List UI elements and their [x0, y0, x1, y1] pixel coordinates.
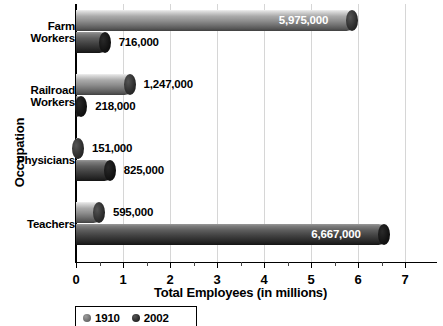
bar-2002-physicians: [76, 160, 115, 181]
circle-marker-1910-icon: [83, 314, 91, 322]
legend-item-2002[interactable]: 2002: [132, 312, 169, 324]
x-tick: [358, 262, 359, 268]
bar-end-cap: [378, 224, 390, 245]
legend-label: 1910: [95, 312, 120, 324]
x-tick-minor: [335, 262, 336, 266]
x-tick: [76, 262, 77, 268]
bar-1910-teachers: [76, 202, 104, 223]
legend-item-1910[interactable]: 1910: [83, 312, 120, 324]
bar-2002-farm-workers: [76, 32, 110, 53]
category-label-line: Railroad: [0, 84, 75, 96]
bar-2002-railroad-workers: [76, 96, 86, 117]
x-tick: [217, 262, 218, 268]
bar-value-label: 218,000: [95, 96, 135, 117]
x-tick-minor: [382, 262, 383, 266]
bar-end-cap: [72, 138, 84, 159]
bar-value-label: 1,247,000: [144, 74, 193, 95]
bar-end-cap: [346, 10, 358, 31]
x-axis-title: Total Employees (in millions): [76, 285, 405, 300]
category-label-line: Workers: [0, 96, 75, 108]
bar-value-label: 595,000: [113, 202, 153, 223]
bar-end-cap: [75, 96, 87, 117]
gridline: [405, 4, 406, 262]
x-tick: [264, 262, 265, 268]
bar-value-label: 5,975,000: [279, 10, 328, 31]
x-axis-line: [75, 262, 437, 264]
plot-area: 01234567 5,975,000716,0001,247,000218,00…: [76, 4, 405, 262]
x-tick: [405, 262, 406, 268]
category-label-farm-workers: FarmWorkers: [0, 20, 75, 44]
x-tick: [123, 262, 124, 268]
category-label-railroad-workers: RailroadWorkers: [0, 84, 75, 108]
x-tick-minor: [241, 262, 242, 266]
category-label-line: Physicians: [0, 154, 75, 166]
bar-value-label: 825,000: [124, 160, 164, 181]
x-tick: [311, 262, 312, 268]
x-tick: [170, 262, 171, 268]
bar-end-cap: [93, 202, 105, 223]
bar-value-label: 151,000: [92, 138, 132, 159]
x-tick-minor: [288, 262, 289, 266]
chart-legend: 19102002: [75, 306, 197, 326]
bar-end-cap: [104, 160, 116, 181]
x-tick-minor: [100, 262, 101, 266]
category-label-line: Farm: [0, 20, 75, 32]
x-tick-minor: [194, 262, 195, 266]
bar-1910-railroad-workers: [76, 74, 135, 95]
bar-value-label: 6,667,000: [311, 224, 360, 245]
category-label-line: Workers: [0, 32, 75, 44]
x-tick-minor: [147, 262, 148, 266]
legend-label: 2002: [144, 312, 169, 324]
circle-marker-2002-icon: [132, 314, 140, 322]
y-axis-title: Occupation: [12, 98, 27, 208]
bar-end-cap: [99, 32, 111, 53]
category-label-line: Teachers: [0, 218, 75, 230]
category-label-teachers: Teachers: [0, 218, 75, 230]
bar-value-label: 716,000: [119, 32, 159, 53]
category-label-physicians: Physicians: [0, 154, 75, 166]
bar-1910-physicians: [76, 138, 83, 159]
bar-end-cap: [124, 74, 136, 95]
